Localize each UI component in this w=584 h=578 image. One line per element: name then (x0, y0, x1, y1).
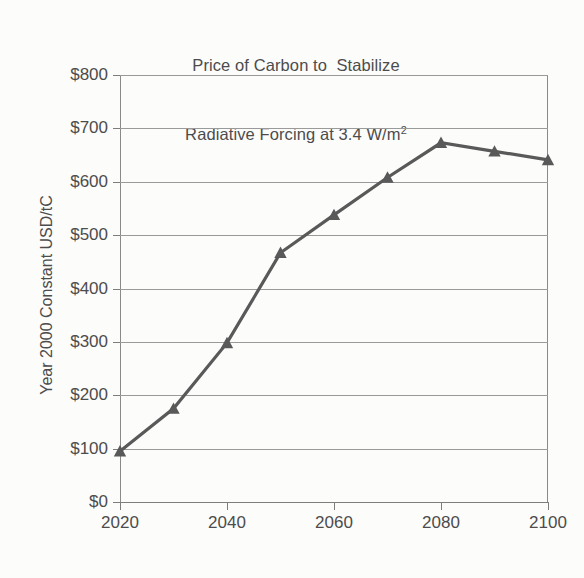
y-axis-tick (113, 502, 120, 503)
y-axis-tick (113, 128, 120, 129)
x-axis-tick (120, 502, 121, 510)
chart-figure: Price of Carbon to Stabilize Radiative F… (0, 0, 584, 578)
y-axis-tick-label: $0 (18, 492, 108, 512)
y-axis-tick-label: $800 (18, 65, 108, 85)
y-axis-tick (113, 235, 120, 236)
y-axis-tick-label: $700 (18, 118, 108, 138)
series-line (120, 143, 548, 452)
series-line-carbon-price (120, 75, 548, 502)
x-axis-tick (334, 502, 335, 510)
x-axis-tick-label: 2040 (182, 513, 272, 533)
x-axis-tick-label: 2080 (396, 513, 486, 533)
chart-title-line-1: Price of Carbon to Stabilize (96, 54, 496, 77)
y-axis-tick (113, 182, 120, 183)
y-axis-tick-label: $600 (18, 172, 108, 192)
y-axis-tick-label: $400 (18, 279, 108, 299)
y-axis-tick-label: $200 (18, 385, 108, 405)
y-axis-tick-labels: $0$100$200$300$400$500$600$700$800 (10, 75, 108, 502)
x-axis-tick-labels: 20202040206020802100 (120, 513, 548, 543)
y-axis-tick-label: $300 (18, 332, 108, 352)
x-axis-tick (227, 502, 228, 510)
plot-area (120, 75, 548, 502)
x-axis-tick-label: 2100 (503, 513, 584, 533)
y-axis-tick (113, 395, 120, 396)
x-axis-tick-label: 2060 (289, 513, 379, 533)
y-axis-tick (113, 289, 120, 290)
x-axis-tick-label: 2020 (75, 513, 165, 533)
y-axis-tick (113, 75, 120, 76)
y-axis-tick-label: $100 (18, 439, 108, 459)
x-axis-tick (548, 502, 549, 510)
y-axis-tick-label: $500 (18, 225, 108, 245)
x-axis-tick (441, 502, 442, 510)
y-axis-tick (113, 342, 120, 343)
